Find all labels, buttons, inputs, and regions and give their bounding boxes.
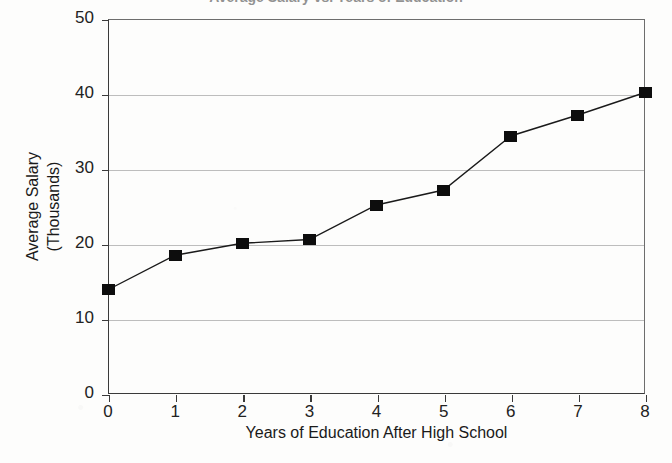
x-axis-tick-label: 1 [155,402,195,422]
x-axis-tick-label: 4 [357,402,397,422]
x-axis-tick-label: 5 [424,402,464,422]
data-point-marker [303,234,316,245]
x-axis-tick [512,395,513,402]
x-axis-tick-label: 6 [491,402,531,422]
data-point-marker [236,238,249,249]
x-axis-tick [310,395,311,402]
x-axis-tick [243,395,244,402]
x-axis-tick-label: 2 [222,402,262,422]
x-axis-title: Years of Education After High School [108,424,645,442]
y-axis-title-line1: Average Salary [22,19,43,394]
data-point-marker [504,131,517,142]
x-axis-tick [445,395,446,402]
x-axis-tick [579,395,580,402]
y-axis-title-line2: (Thousands) [43,19,64,394]
x-axis-tick [109,395,110,402]
y-axis-tick [102,395,109,396]
data-point-marker [639,87,652,98]
data-point-marker [571,110,584,121]
data-point-marker [102,284,115,295]
series-polyline [108,93,645,290]
x-axis-tick [646,395,647,402]
chart-title-text: Average Salary vs. Years of Education [0,0,672,5]
chart-figure: Average Salary vs. Years of Education 01… [0,0,672,463]
x-axis-tick [176,395,177,402]
x-axis-tick-label: 7 [558,402,598,422]
data-point-marker [437,185,450,196]
x-axis-tick-label: 0 [88,402,128,422]
x-axis-tick-label: 8 [625,402,665,422]
y-axis-title: Average Salary (Thousands) [22,19,66,394]
x-axis-tick [378,395,379,402]
data-point-marker [370,200,383,211]
clipped-chart-title: Average Salary vs. Years of Education [0,0,672,9]
x-axis-tick-label: 3 [289,402,329,422]
data-point-marker [169,250,182,261]
